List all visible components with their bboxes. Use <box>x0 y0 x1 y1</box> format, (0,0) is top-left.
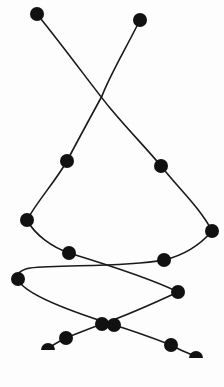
strand-a-node-7 <box>164 338 178 352</box>
strand-a-node-6 <box>107 318 121 332</box>
strands-layer <box>18 14 213 357</box>
strand-a-node-2 <box>154 159 168 173</box>
diagram-canvas <box>0 0 224 387</box>
strand-a-node-1 <box>30 7 44 21</box>
strand-b-node-3 <box>20 213 34 227</box>
strand-a-end-half-node <box>189 351 203 358</box>
strand-a-line <box>18 14 213 357</box>
strand-b-node-1 <box>133 13 147 27</box>
strand-a-node-4 <box>157 253 171 267</box>
strand-b-node-4 <box>62 246 76 260</box>
strand-b-node-7 <box>59 331 73 345</box>
strand-a-node-5 <box>11 272 25 286</box>
strand-b-line <box>27 20 178 349</box>
braided-chain-diagram <box>0 0 224 387</box>
strand-b-node-2 <box>60 154 74 168</box>
strand-a-node-3 <box>205 224 219 238</box>
nodes-layer <box>11 7 219 358</box>
strand-b-end-half-node <box>41 343 55 350</box>
strand-b-node-5 <box>171 285 185 299</box>
strand-b-node-6 <box>95 317 109 331</box>
